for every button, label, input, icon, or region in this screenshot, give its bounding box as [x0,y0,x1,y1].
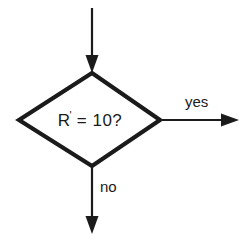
flowchart-canvas: R' = 10? yes no [0,0,246,247]
yes-branch-label: yes [185,94,208,109]
no-branch-arrow-icon [86,166,99,234]
input-arrow-icon [86,8,99,73]
condition-comparison: = 10? [72,111,123,130]
decision-condition-label: R' = 10? [0,110,180,129]
no-branch-label: no [100,179,117,194]
